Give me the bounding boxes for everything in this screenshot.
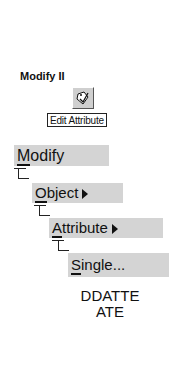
menu-item-object[interactable]: Object bbox=[32, 183, 123, 203]
edit-attribute-icon bbox=[75, 90, 91, 106]
mnemonic: S bbox=[71, 256, 81, 275]
tooltip: Edit Attribute bbox=[47, 113, 107, 127]
menu-label: bject bbox=[47, 184, 79, 201]
edit-attribute-button[interactable] bbox=[72, 87, 94, 109]
menu-item-single[interactable]: Single... bbox=[68, 253, 169, 277]
menu-label: odify bbox=[30, 147, 64, 164]
mnemonic: A bbox=[52, 219, 62, 238]
toolbar-title: Modify II bbox=[20, 70, 65, 82]
menu-item-modify[interactable]: Modify bbox=[14, 145, 109, 166]
command-name: DDATTE ATE bbox=[70, 288, 150, 320]
mnemonic: O bbox=[35, 184, 47, 203]
connector bbox=[18, 168, 29, 179]
menu-label: ingle... bbox=[81, 256, 125, 273]
connector bbox=[39, 205, 50, 216]
menu-item-attribute[interactable]: Attribute bbox=[49, 218, 163, 238]
submenu-arrow-icon bbox=[112, 224, 118, 234]
command-line-2: ATE bbox=[70, 304, 150, 320]
mnemonic: M bbox=[17, 147, 30, 166]
submenu-arrow-icon bbox=[82, 189, 88, 199]
menu-label: ttribute bbox=[62, 219, 108, 236]
command-line-1: DDATTE bbox=[70, 288, 150, 304]
connector bbox=[58, 240, 69, 251]
